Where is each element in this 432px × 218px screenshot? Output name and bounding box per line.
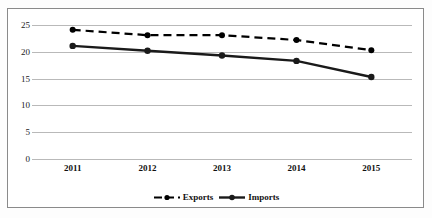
plot-area	[32, 25, 412, 159]
data-point	[145, 32, 151, 38]
imports-line	[73, 46, 372, 77]
data-point	[70, 27, 76, 33]
data-point	[69, 43, 75, 49]
x-tick-label-2012: 2012	[139, 163, 157, 173]
x-tick-label-2014: 2014	[287, 163, 305, 173]
legend-entry-exports[interactable]: Exports	[154, 192, 214, 202]
legend-label-imports: Imports	[248, 192, 279, 202]
chart-legend: Exports Imports	[8, 187, 425, 207]
data-point	[144, 48, 150, 54]
y-tick-label: 10	[21, 100, 30, 110]
x-tick-label-2013: 2013	[213, 163, 231, 173]
data-point	[368, 74, 374, 80]
y-tick-label: 15	[21, 74, 30, 84]
chart-frame: 25 20 15 10 5 0 2011 2012 2	[7, 8, 424, 208]
chart-figure: 25 20 15 10 5 0 2011 2012 2	[0, 0, 432, 218]
data-point	[219, 52, 225, 58]
data-point	[293, 37, 299, 43]
legend-entry-imports[interactable]: Imports	[219, 192, 279, 202]
data-point	[368, 47, 374, 53]
y-tick-label: 5	[26, 127, 31, 137]
x-tick-label-2015: 2015	[362, 163, 380, 173]
data-point	[293, 58, 299, 64]
y-axis: 25 20 15 10 5 0	[16, 25, 30, 159]
legend-swatch-dashed-icon	[154, 193, 180, 202]
y-tick-label: 20	[21, 47, 30, 57]
x-axis: 2011 2012 2013 2014 2015	[32, 163, 412, 179]
data-point	[219, 32, 225, 38]
y-tick-label: 25	[21, 20, 30, 30]
x-tick-label-2011: 2011	[64, 163, 82, 173]
y-tick-label: 0	[26, 154, 31, 164]
series-plot	[32, 25, 412, 159]
gridline	[32, 159, 412, 160]
legend-label-exports: Exports	[183, 192, 214, 202]
legend-swatch-solid-icon	[219, 193, 245, 202]
